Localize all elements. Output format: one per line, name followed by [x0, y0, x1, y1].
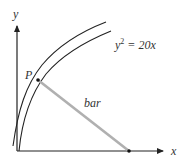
bar-label: bar [84, 96, 101, 110]
curve-parabola [19, 31, 111, 151]
point-p-label: P [24, 68, 33, 82]
point-p [36, 78, 40, 82]
x-axis-label: x [170, 144, 177, 158]
curve-equation: y2 = 20x [114, 37, 156, 52]
point-bar-end [127, 149, 131, 153]
y-axis-label: y [12, 7, 19, 21]
curve-outer [13, 22, 106, 146]
bar-line [38, 80, 129, 151]
equation-rhs: = 20x [124, 38, 156, 52]
diagram-canvas: y x P bar y2 = 20x [0, 0, 188, 163]
